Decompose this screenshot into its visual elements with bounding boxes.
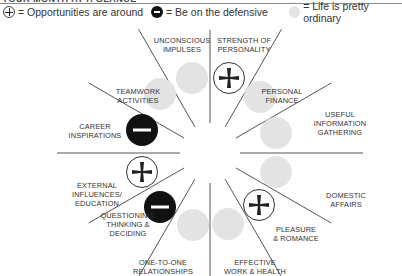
plus-circle-icon [214,63,245,94]
segment-label: QUESTIONING,THINKING &DECIDING [101,211,156,238]
gray-circle-icon [260,117,292,149]
minus-circle-icon [126,114,158,146]
segment-label: DOMESTICAFFAIRS [326,191,366,209]
gray-circle-icon [177,209,209,241]
plus-circle-icon [244,190,275,221]
segment-label: PLEASURE& ROMANCE [273,225,319,243]
gray-circle-icon [260,156,292,188]
segment-label: CAREERINSPIRATIONS [69,122,122,140]
segment-label: TEAMWORKACTIVITIES [116,87,160,105]
segment-label: UNCONSCIOUSIMPULSES [154,36,211,54]
segment-label: ONE-TO-ONERELATIONSHIPS [133,258,193,276]
gray-circle-icon [176,62,208,94]
segment-label: PERSONALFINANCE [261,87,302,105]
gray-circle-icon [212,208,244,240]
segment-label: STRENGTH OFPERSONALITY [217,36,271,54]
segment-label: USEFULINFORMATIONGATHERING [314,110,366,137]
segment-label: EFFECTIVEWORK & HEALTH [224,258,286,276]
segment-label: EXTERNALINFLUENCES/EDUCATION [72,181,122,208]
plus-circle-icon [127,157,158,188]
